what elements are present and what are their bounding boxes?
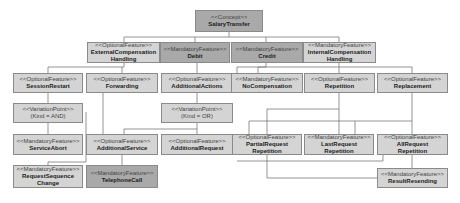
- node-name: SalaryTransfer: [208, 21, 250, 28]
- node-name: (Kind = OR): [181, 113, 213, 120]
- stereotype-label: <<MandatoryFeature>>: [235, 46, 298, 53]
- stereotype-label: <<OptionalFeature>>: [93, 76, 150, 83]
- stereotype-label: <<MandatoryFeature>>: [90, 170, 153, 177]
- node-name-line2: Repetition: [398, 148, 427, 155]
- stereotype-label: <<OptionalFeature>>: [311, 76, 368, 83]
- node-name: Debit: [188, 53, 203, 60]
- node-internal-compensation[interactable]: <<MandatoryFeature>> InternalCompensatio…: [303, 42, 376, 63]
- node-service-abort[interactable]: <<MandatoryFeature>> ServiceAbort: [13, 134, 83, 155]
- node-variation-point-or[interactable]: <<VariationPoint>> (Kind = OR): [161, 103, 233, 123]
- node-name: NoCompensation: [242, 83, 292, 90]
- node-partial-request-repetition[interactable]: <<OptionalFeature>> PartialRequest Repet…: [232, 134, 302, 155]
- node-additional-actions[interactable]: <<OptionalFeature>> AdditionalActions: [161, 73, 233, 93]
- node-name: Replacement: [394, 83, 431, 90]
- stereotype-label: <<Concept>>: [211, 14, 247, 21]
- node-name: Repetition: [325, 83, 354, 90]
- node-name: TelephoneCall: [102, 177, 143, 184]
- stereotype-label: <<OptionalFeature>>: [384, 134, 441, 141]
- node-all-request-repetition[interactable]: <<OptionalFeature>> AllRequest Repetitio…: [377, 134, 448, 155]
- node-replacement[interactable]: <<OptionalFeature>> Replacement: [377, 73, 448, 93]
- node-no-compensation[interactable]: <<MandatoryFeature>> NoCompensation: [231, 73, 303, 93]
- node-name: Credit: [258, 53, 275, 60]
- stereotype-label: <<VariationPoint>>: [23, 106, 74, 113]
- link-intcomp: [258, 62, 412, 73]
- node-last-request-repetition[interactable]: <<MandatoryFeature>> LastRequest Repetit…: [304, 134, 374, 155]
- node-name-line2: Change: [37, 180, 59, 187]
- node-forwarding[interactable]: <<OptionalFeature>> Forwarding: [86, 73, 158, 93]
- link-extcomp: [48, 62, 124, 73]
- node-name: InternalCompensation: [308, 49, 371, 56]
- node-name: SessionRestart: [26, 83, 70, 90]
- node-name: AdditionalRequest: [170, 145, 223, 152]
- stereotype-label: <<MandatoryFeature>>: [308, 42, 371, 49]
- node-name-line2: Repetition: [324, 148, 353, 155]
- node-request-sequence-change[interactable]: <<MandatoryFeature>> RequestSequence Cha…: [13, 165, 83, 188]
- node-variation-point-and[interactable]: <<VariationPoint>> (Kind = AND): [13, 103, 83, 123]
- node-name: ExternalCompensation: [91, 49, 156, 56]
- node-name: AdditionalActions: [171, 83, 222, 90]
- stereotype-label: <<MandatoryFeature>>: [16, 138, 79, 145]
- stereotype-label: <<OptionalFeature>>: [19, 76, 76, 83]
- stereotype-label: <<OptionalFeature>>: [93, 138, 150, 145]
- link-vpor: [124, 123, 197, 134]
- link-credit: [237, 62, 266, 73]
- node-debit[interactable]: <<MandatoryFeature>> Debit: [160, 42, 230, 63]
- node-name: RequestSequence: [22, 173, 74, 180]
- stereotype-label: <<MandatoryFeature>>: [307, 134, 370, 141]
- stereotype-label: <<OptionalFeature>>: [238, 134, 295, 141]
- node-name: LastRequest: [321, 141, 357, 148]
- stereotype-label: <<OptionalFeature>>: [384, 76, 441, 83]
- stereotype-label: <<MandatoryFeature>>: [381, 171, 444, 178]
- node-name: Forwarding: [106, 83, 139, 90]
- node-name: (Kind = AND): [30, 113, 65, 120]
- stereotype-label: <<OptionalFeature>>: [168, 138, 225, 145]
- node-result-resending[interactable]: <<MandatoryFeature>> ResultResending: [377, 168, 448, 188]
- node-name: PartialRequest: [246, 141, 288, 148]
- stereotype-label: <<OptionalFeature>>: [95, 42, 152, 49]
- link-root-children: [124, 32, 339, 42]
- node-name: AllRequest: [397, 141, 428, 148]
- node-name-line2: Handling: [327, 56, 353, 63]
- node-external-compensation[interactable]: <<OptionalFeature>> ExternalCompensation…: [87, 42, 160, 63]
- stereotype-label: <<OptionalFeature>>: [168, 76, 225, 83]
- stereotype-label: <<MandatoryFeature>>: [163, 46, 226, 53]
- node-additional-service[interactable]: <<OptionalFeature>> AdditionalService: [86, 134, 158, 155]
- link-partial: [237, 155, 383, 178]
- node-name-line2: Handling: [111, 56, 137, 63]
- node-additional-request[interactable]: <<OptionalFeature>> AdditionalRequest: [161, 134, 233, 155]
- node-name: ResultResending: [388, 178, 437, 185]
- node-telephone-call[interactable]: <<MandatoryFeature>> TelephoneCall: [86, 165, 158, 188]
- stereotype-label: <<VariationPoint>>: [172, 106, 223, 113]
- link-repetition: [267, 93, 339, 134]
- stereotype-label: <<MandatoryFeature>>: [235, 76, 298, 83]
- link-replacement: [249, 93, 412, 134]
- node-name: AdditionalService: [97, 145, 148, 152]
- node-name-line2: Repetition: [252, 148, 281, 155]
- node-salary-transfer[interactable]: <<Concept>> SalaryTransfer: [195, 10, 263, 32]
- node-session-restart[interactable]: <<OptionalFeature>> SessionRestart: [13, 73, 83, 93]
- node-name: ServiceAbort: [29, 145, 66, 152]
- stereotype-label: <<MandatoryFeature>>: [16, 166, 79, 173]
- node-credit[interactable]: <<MandatoryFeature>> Credit: [231, 42, 303, 63]
- node-repetition[interactable]: <<OptionalFeature>> Repetition: [304, 73, 375, 93]
